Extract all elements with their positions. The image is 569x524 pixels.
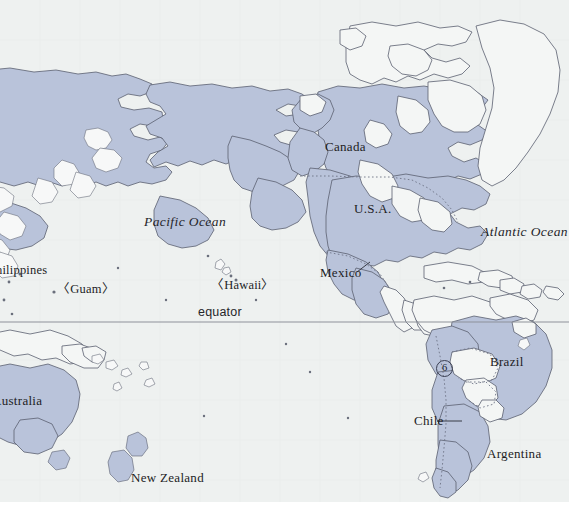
map-figure: .land-hi { fill:#b9c3da; stroke:#5b6070;… xyxy=(0,0,569,524)
map-geometry: .land-hi { fill:#b9c3da; stroke:#5b6070;… xyxy=(0,0,569,502)
figure-bottom-margin xyxy=(0,502,569,524)
numbered-marker-6[interactable]: 6 xyxy=(436,360,453,377)
landmass-siberia xyxy=(0,68,316,250)
landmass-oceania xyxy=(0,330,155,482)
map-canvas[interactable]: .land-hi { fill:#b9c3da; stroke:#5b6070;… xyxy=(0,0,569,503)
landmass-south-america xyxy=(412,294,552,498)
